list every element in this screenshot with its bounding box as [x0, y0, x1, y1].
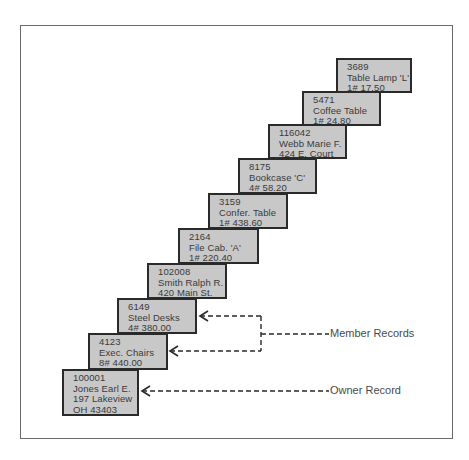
member-records-label: Member Records [330, 327, 414, 339]
owner-record-label: Owner Record [330, 384, 401, 396]
